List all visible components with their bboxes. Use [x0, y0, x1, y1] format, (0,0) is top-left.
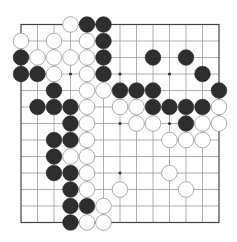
- black-stone: [112, 83, 128, 99]
- white-stone: [178, 132, 194, 148]
- white-stone: [162, 132, 178, 148]
- white-stone: [79, 33, 95, 49]
- star-point: [118, 122, 121, 125]
- black-stone: [63, 182, 79, 198]
- white-stone: [162, 165, 178, 181]
- white-stone: [79, 165, 95, 181]
- black-stone: [63, 215, 79, 231]
- white-stone: [211, 116, 227, 132]
- black-stone: [129, 83, 145, 99]
- white-stone: [195, 116, 211, 132]
- white-stone: [96, 215, 112, 231]
- black-stone: [162, 99, 178, 115]
- black-stone: [178, 50, 194, 66]
- black-stone: [79, 198, 95, 214]
- white-stone: [30, 50, 46, 66]
- black-stone: [145, 99, 161, 115]
- black-stone: [13, 66, 29, 82]
- black-stone: [178, 116, 194, 132]
- black-stone: [46, 83, 62, 99]
- black-stone: [46, 149, 62, 165]
- black-stone: [145, 83, 161, 99]
- white-stone: [46, 66, 62, 82]
- white-stone: [112, 99, 128, 115]
- black-stone: [96, 50, 112, 66]
- black-stone: [96, 33, 112, 49]
- white-stone: [96, 83, 112, 99]
- white-stone: [79, 116, 95, 132]
- white-stone: [145, 116, 161, 132]
- white-stone: [211, 99, 227, 115]
- white-stone: [79, 83, 95, 99]
- black-stone: [63, 198, 79, 214]
- white-stone: [195, 132, 211, 148]
- star-point: [168, 72, 171, 75]
- white-stone: [129, 99, 145, 115]
- black-stone: [13, 50, 29, 66]
- black-stone: [96, 66, 112, 82]
- go-board[interactable]: [0, 0, 237, 242]
- star-point: [118, 171, 121, 174]
- white-stone: [79, 99, 95, 115]
- white-stone: [46, 50, 62, 66]
- white-stone: [63, 17, 79, 33]
- white-stone: [63, 149, 79, 165]
- white-stone: [79, 149, 95, 165]
- black-stone: [30, 99, 46, 115]
- black-stone: [30, 66, 46, 82]
- black-stone: [63, 116, 79, 132]
- white-stone: [96, 198, 112, 214]
- black-stone: [63, 132, 79, 148]
- white-stone: [79, 215, 95, 231]
- white-stone: [178, 182, 194, 198]
- white-stone: [79, 132, 95, 148]
- star-point: [69, 72, 72, 75]
- white-stone: [112, 182, 128, 198]
- black-stone: [46, 132, 62, 148]
- black-stone: [211, 83, 227, 99]
- star-point: [168, 122, 171, 125]
- black-stone: [96, 17, 112, 33]
- black-stone: [63, 99, 79, 115]
- white-stone: [46, 33, 62, 49]
- black-stone: [195, 66, 211, 82]
- black-stone: [79, 17, 95, 33]
- star-point: [118, 72, 121, 75]
- black-stone: [46, 165, 62, 181]
- white-stone: [13, 33, 29, 49]
- black-stone: [178, 99, 194, 115]
- black-stone: [195, 99, 211, 115]
- white-stone: [79, 50, 95, 66]
- white-stone: [129, 116, 145, 132]
- black-stone: [63, 165, 79, 181]
- white-stone: [79, 66, 95, 82]
- white-stone: [63, 50, 79, 66]
- black-stone: [46, 99, 62, 115]
- white-stone: [79, 182, 95, 198]
- black-stone: [145, 50, 161, 66]
